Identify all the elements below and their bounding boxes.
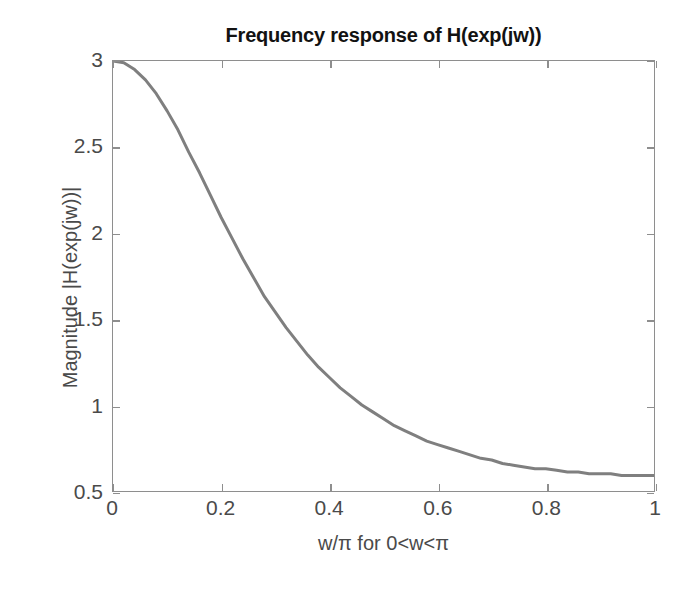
y-axis-label: Magnitude |H(exp(jw))|	[59, 72, 82, 504]
y-tick-mark	[647, 407, 654, 408]
x-tick-label: 0.8	[532, 496, 561, 520]
x-tick-mark	[656, 484, 657, 491]
y-tick-mark	[113, 234, 120, 235]
x-tick-label: 0.2	[206, 496, 235, 520]
y-tick-mark	[647, 147, 654, 148]
y-tick-mark	[113, 407, 120, 408]
x-tick-mark	[113, 484, 114, 491]
x-tick-mark	[656, 61, 657, 68]
y-tick-mark	[647, 320, 654, 321]
y-tick-mark	[647, 234, 654, 235]
y-tick-mark	[113, 147, 120, 148]
plot-area	[112, 60, 655, 492]
y-tick-label: 3	[0, 48, 103, 72]
x-tick-label: 0.4	[315, 496, 344, 520]
x-tick-mark	[222, 61, 223, 68]
x-tick-mark	[222, 484, 223, 491]
y-tick-mark	[647, 493, 654, 494]
x-axis-label: w/π for 0<w<π	[112, 532, 655, 555]
chart-title: Frequency response of H(exp(jw))	[112, 24, 655, 47]
y-tick-label: 1.5	[0, 307, 103, 331]
x-tick-label: 1	[649, 496, 661, 520]
x-tick-mark	[439, 61, 440, 68]
y-tick-mark	[647, 61, 654, 62]
y-tick-label: 0.5	[0, 480, 103, 504]
x-tick-mark	[547, 484, 548, 491]
y-tick-mark	[113, 61, 120, 62]
figure-canvas: Frequency response of H(exp(jw)) 00.20.4…	[0, 0, 689, 594]
curve-svg	[113, 61, 654, 491]
x-tick-label: 0.6	[423, 496, 452, 520]
x-tick-mark	[330, 61, 331, 68]
y-tick-mark	[113, 320, 120, 321]
y-tick-mark	[113, 493, 120, 494]
x-tick-mark	[547, 61, 548, 68]
data-curve-line	[113, 61, 654, 476]
y-tick-label: 1	[0, 394, 103, 418]
y-tick-label: 2	[0, 221, 103, 245]
x-tick-label: 0	[106, 496, 118, 520]
y-tick-label: 2.5	[0, 134, 103, 158]
x-tick-mark	[439, 484, 440, 491]
x-tick-mark	[330, 484, 331, 491]
